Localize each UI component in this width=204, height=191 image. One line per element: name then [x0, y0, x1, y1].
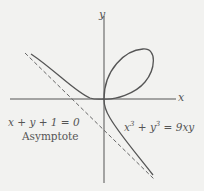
x-axis-label: x — [178, 91, 184, 104]
folium-left-branch — [31, 54, 104, 99]
curve-eq-plus: + — [134, 121, 149, 133]
folium-loop — [104, 49, 153, 99]
folium-diagram — [0, 0, 204, 191]
curve-equation: x3 + y3 = 9xy — [124, 121, 194, 133]
asymptote-equation: x + y + 1 = 0 — [8, 116, 80, 128]
y-axis-label: y — [99, 8, 105, 21]
curve-eq-rhs: = 9xy — [160, 121, 194, 133]
asymptote-label: Asymptote — [22, 130, 79, 142]
